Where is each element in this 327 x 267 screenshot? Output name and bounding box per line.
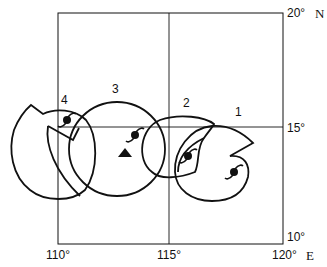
triangle-marker-icon [118, 148, 132, 157]
wind-radius-4 [11, 105, 95, 199]
lat-label-20: 20° [287, 6, 305, 20]
typhoon-icon [126, 128, 144, 142]
typhoon-diagram: 4 3 2 1 20° N 15° 10° 110° 115° 120° E [0, 0, 327, 267]
lon-label-120: 120° [272, 248, 297, 262]
lon-label-115: 115° [157, 248, 181, 262]
position-label-3: 3 [112, 82, 119, 96]
position-label-2: 2 [183, 96, 190, 110]
lon-unit-e: E [306, 248, 314, 263]
position-label-1: 1 [235, 105, 242, 119]
wind-radius-3 [69, 102, 165, 196]
typhoon-icon [58, 113, 76, 127]
lat-label-10: 10° [287, 230, 305, 244]
lat-unit-n: N [315, 6, 325, 21]
lon-label-110: 110° [46, 248, 70, 262]
position-label-4: 4 [61, 93, 68, 107]
typhoon-icon [225, 165, 243, 179]
lat-label-15: 15° [287, 121, 305, 135]
wind-radius-1 [175, 126, 253, 201]
